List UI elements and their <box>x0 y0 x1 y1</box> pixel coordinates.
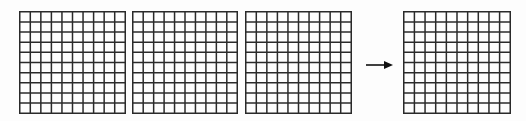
right-arrow-icon <box>366 56 393 75</box>
grid-3 <box>245 11 352 114</box>
grid-2 <box>132 11 238 114</box>
grid-4 <box>403 11 511 114</box>
grid-1 <box>19 11 126 114</box>
